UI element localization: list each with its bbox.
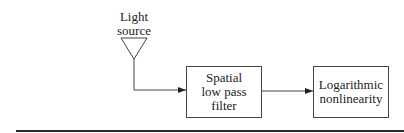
light-source-label: Light source bbox=[104, 10, 164, 38]
block-label-line: Spatial bbox=[206, 71, 242, 85]
bottom-rule-divider bbox=[16, 130, 404, 132]
light-source-triangle-icon bbox=[121, 38, 147, 59]
block-label-line: filter bbox=[211, 99, 236, 113]
spatial-low-pass-filter-block: Spatial low pass filter bbox=[186, 66, 262, 118]
light-source-label-line2: source bbox=[104, 24, 164, 38]
source-to-filter-arrow bbox=[134, 59, 186, 90]
block-label-line: Logarithmic bbox=[319, 78, 383, 92]
block-label-line: nonlinearity bbox=[320, 92, 383, 106]
logarithmic-nonlinearity-block: Logarithmic nonlinearity bbox=[313, 66, 389, 118]
block-label-line: low pass bbox=[201, 85, 246, 99]
light-source-label-line1: Light bbox=[104, 10, 164, 24]
